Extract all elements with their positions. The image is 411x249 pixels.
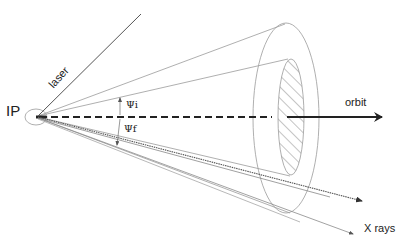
xray-lower-secondary-line — [38, 119, 300, 222]
xrays-label: X rays — [364, 222, 395, 234]
cone-inner-lower-line — [38, 117, 290, 176]
orbit-label: orbit — [345, 96, 366, 108]
ip-label: IP — [6, 102, 20, 119]
xray-upper-arrow — [38, 117, 362, 201]
diagram-canvas — [0, 0, 411, 249]
cone-outer-upper-line — [38, 24, 285, 116]
psi-f-angle-arrow — [117, 119, 120, 145]
cone-inner-upper-line — [38, 59, 288, 116]
xray-lower-arrow — [38, 118, 353, 234]
psi-f-label: Ψf — [124, 123, 136, 134]
psi-i-label: Ψi — [126, 99, 138, 110]
